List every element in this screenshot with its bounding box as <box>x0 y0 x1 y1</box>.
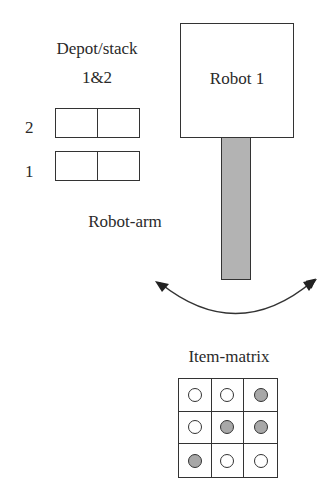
empty-item-icon <box>220 454 234 468</box>
empty-item-icon <box>254 454 268 468</box>
empty-item-icon <box>188 420 202 434</box>
matrix-cell <box>212 444 245 477</box>
matrix-cell <box>212 412 245 445</box>
filled-item-icon <box>254 388 268 402</box>
filled-item-icon <box>254 420 268 434</box>
empty-item-icon <box>220 388 234 402</box>
matrix-cell <box>179 444 212 477</box>
filled-item-icon <box>188 454 202 468</box>
empty-item-icon <box>188 388 202 402</box>
matrix-cell <box>244 412 277 445</box>
matrix-cell <box>212 379 245 412</box>
item-matrix <box>178 378 278 478</box>
matrix-cell <box>179 412 212 445</box>
item-matrix-title: Item-matrix <box>188 348 269 365</box>
matrix-cell <box>244 379 277 412</box>
matrix-cell <box>244 444 277 477</box>
filled-item-icon <box>220 420 234 434</box>
matrix-cell <box>179 379 212 412</box>
